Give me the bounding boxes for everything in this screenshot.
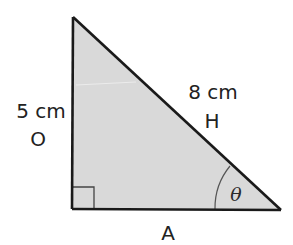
opposite-length-label: 5 cm xyxy=(16,101,66,121)
opposite-role-label: O xyxy=(30,129,46,149)
adjacent-side xyxy=(72,209,281,210)
hypotenuse-length-label: 8 cm xyxy=(188,82,238,102)
adjacent-role-label: A xyxy=(161,223,175,243)
theta-angle-label: θ xyxy=(230,185,241,204)
hypotenuse-role-label: H xyxy=(204,111,219,131)
opposite-side xyxy=(72,17,73,209)
